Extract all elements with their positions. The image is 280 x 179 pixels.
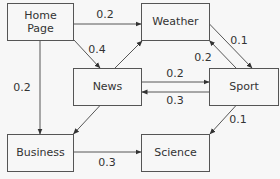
- node-label-home: Page: [27, 22, 54, 35]
- node-news: News: [74, 69, 142, 106]
- edge-label-sport-weather: 0.2: [194, 51, 212, 64]
- node-label-home: Home: [24, 9, 57, 22]
- edge-news-weather: [115, 41, 142, 68]
- edge-label-weather-sport: 0.1: [230, 34, 248, 47]
- node-label-business: Business: [16, 146, 65, 159]
- node-home: HomePage: [8, 4, 74, 41]
- diagram-canvas: HomePageWeatherNewsSportBusinessScience …: [0, 0, 280, 179]
- edge-label-news-sport: 0.2: [166, 67, 184, 80]
- node-sport: Sport: [210, 69, 279, 106]
- node-label-weather: Weather: [152, 15, 199, 28]
- node-label-science: Science: [154, 146, 197, 159]
- node-business: Business: [8, 135, 74, 172]
- edge-label-sport-science: 0.1: [229, 113, 247, 126]
- edge-news-business: [74, 106, 101, 135]
- arrow-news-business: [74, 106, 101, 135]
- node-weather: Weather: [142, 4, 210, 41]
- node-science: Science: [142, 135, 210, 172]
- edge-label-home-weather: 0.2: [96, 8, 114, 21]
- edge-label-home-news: 0.4: [88, 43, 106, 56]
- arrow-news-weather: [115, 41, 142, 68]
- edge-label-sport-news: 0.3: [166, 94, 184, 107]
- edge-label-home-business: 0.2: [13, 81, 31, 94]
- node-label-sport: Sport: [229, 80, 259, 93]
- edge-label-business-science: 0.3: [98, 156, 116, 169]
- node-label-news: News: [93, 80, 123, 93]
